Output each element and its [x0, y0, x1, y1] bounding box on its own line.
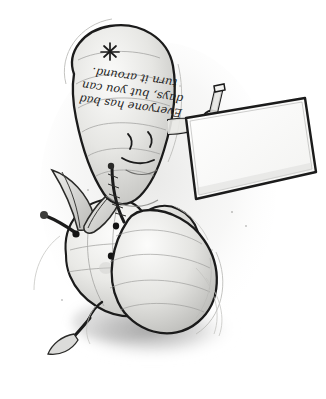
pear-stem-knot	[108, 163, 114, 169]
apple-stem-tip	[40, 211, 48, 219]
illustration-canvas: Everyone has bad days, but you can turn …	[0, 0, 326, 399]
apple-stem-base	[72, 230, 79, 237]
apple-eye-left	[113, 223, 119, 230]
post-cap	[214, 84, 225, 92]
pear-blossom-star-icon	[101, 43, 119, 60]
illustration-svg	[0, 0, 326, 399]
artwork	[0, 0, 326, 399]
